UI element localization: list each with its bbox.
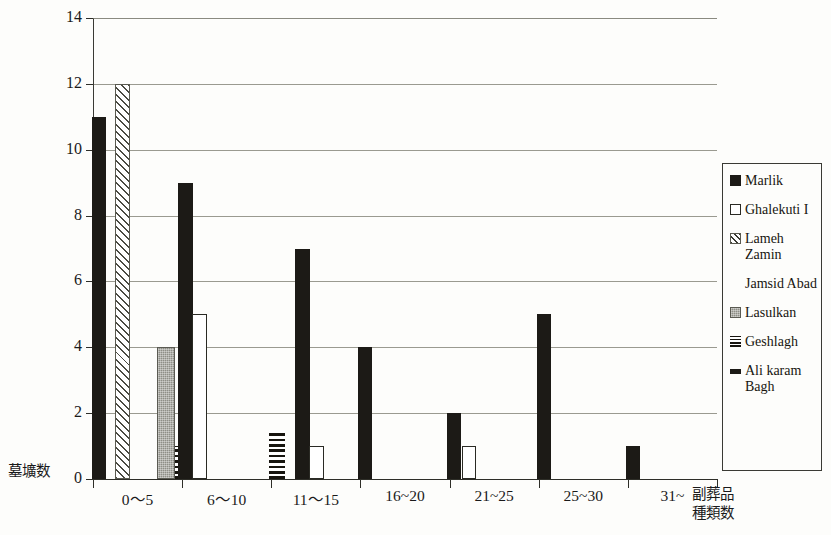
bar	[447, 413, 461, 479]
legend-label: Lasulkan	[745, 305, 821, 321]
legend-item: Ghalekuti I	[730, 202, 821, 218]
legend-label: Marlik	[745, 173, 821, 189]
legend-label: Ali karam Bagh	[745, 363, 821, 395]
y-axis-tick-label: 8	[40, 207, 82, 223]
x-axis-tick-label: 11〜15	[271, 487, 360, 509]
y-axis-tick-label: 10	[40, 141, 82, 157]
legend-swatch-hatch-icon	[730, 233, 741, 244]
legend-item: Ali karam Bagh	[730, 363, 821, 395]
y-axis-tick-label: 4	[40, 338, 82, 354]
bar	[309, 446, 324, 479]
legend-label: Geshlagh	[745, 334, 821, 350]
bar	[626, 446, 640, 479]
y-axis-tick-label: 6	[40, 272, 82, 288]
x-axis-title-line: 種類数	[692, 504, 734, 523]
legend-swatch-gray-icon	[730, 307, 741, 318]
bar	[537, 314, 551, 479]
bar	[192, 314, 207, 479]
bar	[295, 249, 310, 480]
x-axis-line	[93, 479, 717, 480]
x-axis-tick-label: 6〜10	[182, 487, 271, 509]
legend-item: Lameh Zamin	[730, 231, 821, 263]
legend-swatch-none-icon	[730, 278, 741, 289]
legend-item: Geshlagh	[730, 334, 821, 350]
legend-label: Jamsid Abad	[745, 276, 821, 292]
x-axis-title: 副葬品種類数	[692, 485, 734, 523]
bar	[115, 84, 130, 479]
bar-chart: 02468101214 墓壙数 0〜56〜1011〜1516~2021~2525…	[0, 0, 831, 535]
bar	[462, 446, 476, 479]
y-axis-tick-label: 14	[40, 9, 82, 25]
legend-label: Lameh Zamin	[745, 231, 821, 263]
bar	[358, 347, 372, 479]
bar	[157, 347, 175, 479]
bars-layer	[93, 18, 717, 479]
legend-swatch-hstripe-icon	[730, 336, 741, 347]
legend-swatch-solid-icon	[730, 175, 741, 186]
x-axis-tick-label: 0〜5	[93, 487, 182, 509]
legend: MarlikGhalekuti ILameh ZaminJamsid AbadL…	[722, 163, 822, 471]
x-axis-title-line: 副葬品	[692, 485, 734, 504]
legend-item: Lasulkan	[730, 305, 821, 321]
y-axis-title: 墓壙数	[8, 459, 50, 480]
legend-label: Ghalekuti I	[745, 202, 821, 218]
y-axis-tick-label: 2	[40, 404, 82, 420]
legend-item: Jamsid Abad	[730, 276, 821, 292]
x-axis-tick-label: 21~25	[450, 487, 539, 505]
legend-swatch-thick-icon	[730, 369, 741, 374]
x-axis-tick-label: 25~30	[539, 487, 628, 505]
y-axis-tick-label: 12	[40, 75, 82, 91]
legend-swatch-open-icon	[730, 204, 741, 215]
bar	[178, 183, 193, 479]
legend-item: Marlik	[730, 173, 821, 189]
x-axis-tick-label: 16~20	[360, 487, 449, 505]
bar	[92, 117, 106, 479]
bar	[269, 430, 285, 479]
